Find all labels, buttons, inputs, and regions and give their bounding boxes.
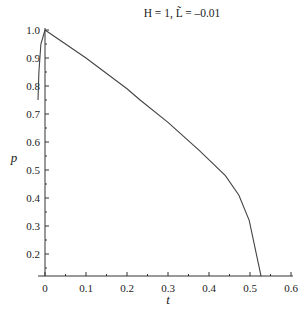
y-tick-label: 0.6 bbox=[26, 136, 40, 148]
x-tick-label: 0.6 bbox=[284, 282, 298, 294]
chart: H = 1, L̃ = –0.01 00.10.20.30.40.50.6 0.… bbox=[0, 0, 308, 314]
y-ticks: 0.20.30.40.50.60.70.80.91.0 bbox=[26, 24, 49, 268]
y-tick-label: 0.3 bbox=[26, 220, 40, 232]
curve-main bbox=[45, 30, 261, 276]
y-tick-label: 0.4 bbox=[26, 192, 40, 204]
x-tick-label: 0 bbox=[42, 282, 48, 294]
y-tick-label: 0.7 bbox=[26, 108, 40, 120]
chart-title: H = 1, L̃ = –0.01 bbox=[144, 6, 221, 20]
x-axis-label: t bbox=[166, 292, 170, 307]
y-tick-label: 0.5 bbox=[26, 164, 40, 176]
y-axis-label: p bbox=[10, 150, 18, 165]
y-tick-label: 0.2 bbox=[26, 248, 40, 260]
x-tick-label: 0.4 bbox=[202, 282, 216, 294]
x-tick-label: 0.2 bbox=[120, 282, 134, 294]
x-tick-label: 0.1 bbox=[79, 282, 93, 294]
y-tick-label: 1.0 bbox=[26, 24, 40, 36]
x-ticks: 00.10.20.30.40.50.6 bbox=[42, 272, 298, 294]
x-tick-label: 0.5 bbox=[243, 282, 257, 294]
y-tick-label: 0.9 bbox=[26, 52, 40, 64]
